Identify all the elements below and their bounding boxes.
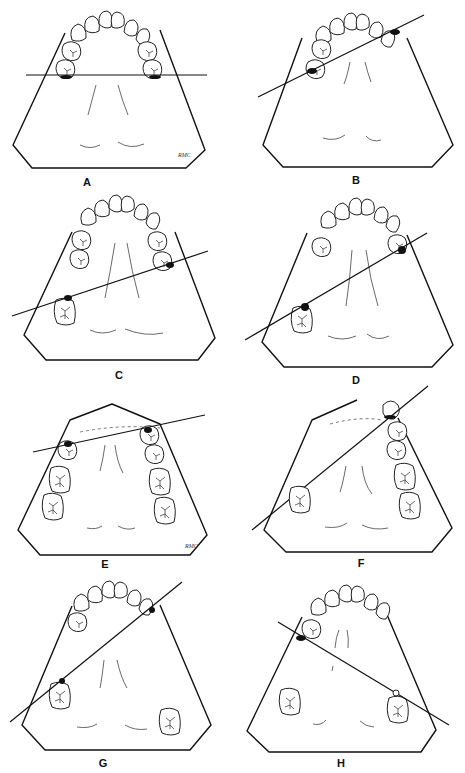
- panel-label-g: G: [93, 757, 113, 769]
- panel-g: [10, 581, 211, 750]
- signature-a: RMC: [177, 152, 192, 158]
- panel-d: [245, 198, 453, 367]
- panel-label-c: C: [109, 369, 129, 381]
- dental-arch-diagram: RMC: [0, 0, 465, 773]
- panel-label-e: E: [95, 558, 115, 570]
- panel-h: [247, 585, 449, 752]
- panel-label-d: D: [346, 374, 366, 386]
- panel-label-h: H: [331, 757, 351, 769]
- panel-label-a: A: [77, 176, 97, 188]
- panel-f: [252, 386, 452, 552]
- panel-a: RMC: [13, 11, 207, 168]
- panel-b: [258, 13, 453, 167]
- panel-c: [12, 195, 215, 360]
- signature-e: RMC: [184, 543, 199, 549]
- panel-e: RMC: [18, 404, 207, 555]
- panel-label-f: F: [351, 557, 371, 569]
- panel-label-b: B: [346, 174, 366, 186]
